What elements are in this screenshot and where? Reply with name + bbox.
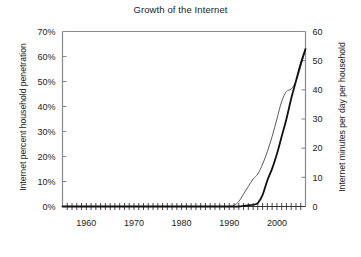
plot-frame (63, 32, 306, 207)
svg-text:10%: 10% (37, 177, 55, 187)
plot-area: 0%10%20%30%40%50%60%70%01020304050601960… (0, 0, 361, 257)
svg-text:1970: 1970 (124, 218, 144, 228)
data-series (63, 49, 306, 207)
axis-tick-labels: 0%10%20%30%40%50%60%70%01020304050601960… (37, 27, 322, 228)
chart-figure: Growth of the Internet Internet percent … (0, 0, 361, 257)
svg-text:60%: 60% (37, 52, 55, 62)
svg-text:40: 40 (313, 85, 323, 95)
svg-text:70%: 70% (37, 27, 55, 37)
svg-text:20: 20 (313, 143, 323, 153)
axis-ticks (63, 57, 306, 211)
svg-text:60: 60 (313, 27, 323, 37)
svg-text:50%: 50% (37, 77, 55, 87)
svg-text:1960: 1960 (76, 218, 96, 228)
svg-text:0: 0 (313, 202, 318, 212)
svg-text:0%: 0% (42, 202, 55, 212)
svg-text:1980: 1980 (172, 218, 192, 228)
svg-text:30: 30 (313, 114, 323, 124)
svg-text:1990: 1990 (219, 218, 239, 228)
svg-text:30%: 30% (37, 127, 55, 137)
svg-text:20%: 20% (37, 152, 55, 162)
svg-text:50: 50 (313, 56, 323, 66)
svg-text:40%: 40% (37, 102, 55, 112)
svg-text:2000: 2000 (267, 218, 287, 228)
svg-text:10: 10 (313, 173, 323, 183)
